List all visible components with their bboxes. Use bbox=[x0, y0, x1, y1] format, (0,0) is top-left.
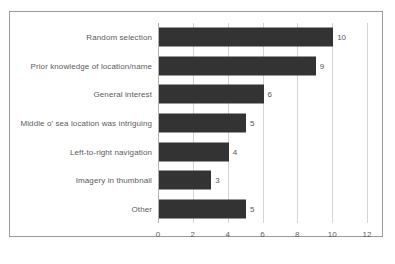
gridline-12 bbox=[367, 23, 368, 223]
bar bbox=[159, 85, 264, 104]
x-tick-label: 12 bbox=[363, 230, 372, 239]
category-label: General interest bbox=[93, 90, 152, 99]
x-tick-label: 8 bbox=[295, 230, 299, 239]
category-label: Left-to-right navigation bbox=[70, 147, 152, 156]
bar bbox=[159, 113, 246, 132]
category-label: Prior knowledge of location/name bbox=[31, 61, 153, 70]
category-label: Middle o' sea location was intriguing bbox=[20, 118, 152, 127]
bar-row: Prior knowledge of location/name9 bbox=[158, 52, 367, 81]
chart-plot-frame: Random selection10Prior knowledge of loc… bbox=[9, 11, 383, 237]
bar-value-label: 5 bbox=[250, 118, 254, 127]
bar-value-label: 5 bbox=[250, 204, 254, 213]
bar-row: Random selection10 bbox=[158, 23, 367, 52]
x-tick-label: 4 bbox=[225, 230, 229, 239]
bar-row: Other5 bbox=[158, 194, 367, 223]
category-label: Other bbox=[131, 204, 152, 213]
bar-value-label: 10 bbox=[337, 33, 346, 42]
x-tick-label: 10 bbox=[328, 230, 337, 239]
bar bbox=[159, 142, 229, 161]
x-tick-label: 6 bbox=[260, 230, 264, 239]
bar-row: Left-to-right navigation4 bbox=[158, 137, 367, 166]
category-label: Random selection bbox=[86, 33, 152, 42]
category-label: Imagery in thumbnail bbox=[76, 176, 152, 185]
bar-chart-figure: Random selection10Prior knowledge of loc… bbox=[0, 0, 395, 264]
bar-rows: Random selection10Prior knowledge of loc… bbox=[158, 23, 367, 223]
bar-value-label: 3 bbox=[215, 176, 219, 185]
x-tick-label: 2 bbox=[191, 230, 195, 239]
bar bbox=[159, 171, 211, 190]
bar bbox=[159, 199, 246, 218]
figure-caption bbox=[24, 246, 374, 264]
bar-row: General interest6 bbox=[158, 80, 367, 109]
bar-value-label: 4 bbox=[233, 147, 237, 156]
x-axis-tick-labels: 024681012 bbox=[158, 223, 367, 247]
bar-row: Middle o' sea location was intriguing5 bbox=[158, 109, 367, 138]
bar-row: Imagery in thumbnail3 bbox=[158, 166, 367, 195]
plot-area: Random selection10Prior knowledge of loc… bbox=[158, 23, 367, 223]
bar bbox=[159, 56, 316, 75]
bar-value-label: 9 bbox=[320, 61, 324, 70]
bar-value-label: 6 bbox=[268, 90, 272, 99]
x-tick-label: 0 bbox=[156, 230, 160, 239]
bar bbox=[159, 28, 333, 47]
